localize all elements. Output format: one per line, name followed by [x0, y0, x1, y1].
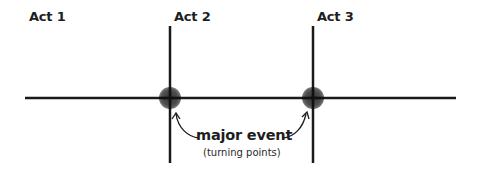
act-1-label: Act 1	[29, 9, 66, 24]
act-2-label: Act 2	[174, 9, 211, 24]
left-curved-arrow-icon	[172, 113, 199, 138]
major-event-label: major event	[196, 127, 292, 143]
turning-points-caption: (turning points)	[203, 147, 281, 158]
act-3-label: Act 3	[317, 9, 354, 24]
three-act-diagram: Act 1 Act 2 Act 3 major event (turning p…	[0, 0, 480, 173]
